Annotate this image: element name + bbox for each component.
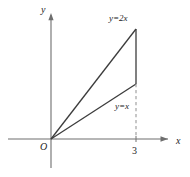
- x-axis-label: x: [176, 136, 180, 146]
- graph-canvas: [0, 0, 190, 177]
- y-axis-arrowhead: [48, 13, 53, 20]
- origin-label: O: [40, 142, 47, 152]
- y-axis-label: y: [41, 5, 45, 15]
- lower-line-label: y=x: [115, 102, 129, 111]
- line-y-equals-2x: [51, 29, 136, 139]
- y-axis: [48, 13, 53, 168]
- x-tick-label-3: 3: [132, 146, 137, 156]
- figure-container: y x O 3 y=2x y=x: [0, 0, 190, 177]
- x-axis: [8, 136, 168, 142]
- line-y-equals-x: [51, 84, 136, 139]
- x-axis-arrowhead: [161, 136, 169, 142]
- upper-line-label: y=2x: [109, 14, 128, 23]
